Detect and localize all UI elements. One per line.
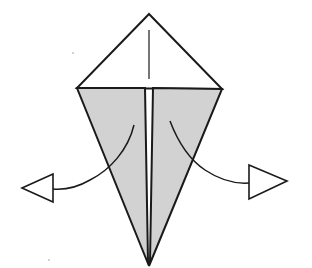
diagram-svg bbox=[0, 0, 312, 268]
left-flap bbox=[77, 88, 149, 266]
right-arrowhead-icon bbox=[249, 165, 287, 199]
speck bbox=[72, 52, 74, 54]
origami-diagram bbox=[0, 0, 312, 268]
right-flap bbox=[149, 88, 222, 266]
speck bbox=[48, 259, 50, 261]
left-arrowhead-icon bbox=[22, 174, 53, 202]
